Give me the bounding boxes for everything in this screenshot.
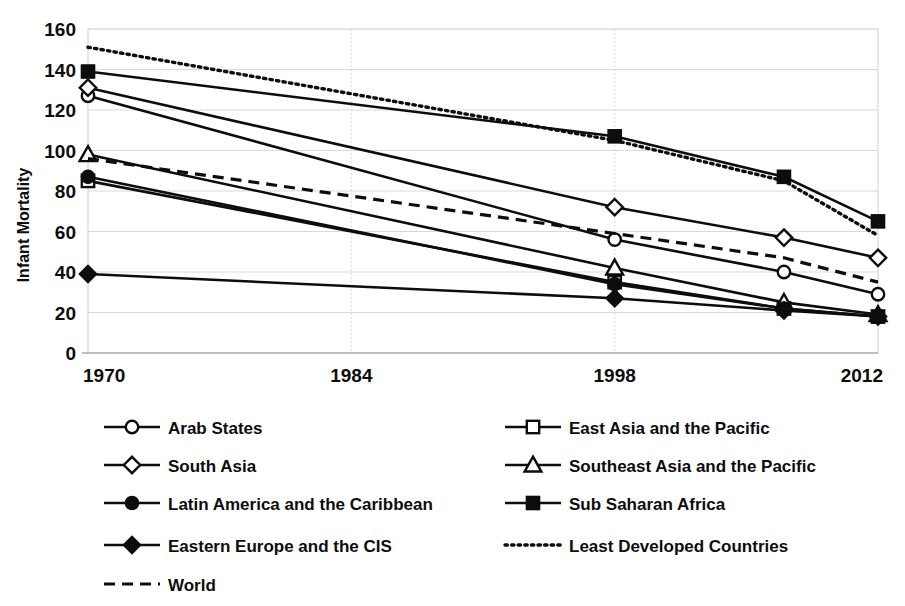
series-line <box>88 88 878 258</box>
legend-item-label: Southeast Asia and the Pacific <box>569 457 816 476</box>
data-point-marker-diamond <box>124 457 140 473</box>
series-east-asia-and-the-pacific <box>82 175 884 323</box>
data-point-marker-diamond <box>870 250 886 266</box>
series-line <box>88 47 878 235</box>
series-line <box>88 177 878 317</box>
data-point-marker-circle <box>126 497 138 509</box>
data-point-marker-square <box>527 497 539 509</box>
legend-item-label: South Asia <box>168 457 257 476</box>
legend-item-label: Latin America and the Caribbean <box>168 495 433 514</box>
x-tick-label: 1970 <box>83 365 125 386</box>
legend-item-label: World <box>168 576 216 595</box>
y-tick-label: 100 <box>44 141 76 162</box>
infant-mortality-line-chart: 020406080100120140160 1970198419982012 A… <box>0 0 905 606</box>
legend-item-eastern-europe-and-the-cis[interactable]: Eastern Europe and the CIS <box>104 537 392 556</box>
legend-item-label: Sub Saharan Africa <box>569 495 726 514</box>
legend-item-southeast-asia-and-the-pacific[interactable]: Southeast Asia and the Pacific <box>505 457 816 476</box>
y-tick-label: 140 <box>44 60 76 81</box>
legend-item-label: Eastern Europe and the CIS <box>168 537 392 556</box>
legend-item-east-asia-and-the-pacific[interactable]: East Asia and the Pacific <box>505 419 770 438</box>
legend-item-label: East Asia and the Pacific <box>569 419 770 438</box>
data-point-marker-circle <box>82 171 94 183</box>
y-tick-label: 60 <box>55 222 76 243</box>
data-point-marker-circle <box>608 233 620 245</box>
series-line <box>88 274 878 317</box>
data-series-group <box>80 47 887 325</box>
x-tick-label: 2012 <box>841 365 883 386</box>
legend-item-sub-saharan-africa[interactable]: Sub Saharan Africa <box>505 495 726 514</box>
data-point-marker-diamond <box>606 290 622 306</box>
y-axis-title: Infant Mortality <box>15 168 32 283</box>
legend-item-latin-america-and-the-caribbean[interactable]: Latin America and the Caribbean <box>104 495 433 514</box>
y-tick-label: 20 <box>55 303 76 324</box>
legend-item-least-developed-countries[interactable]: Least Developed Countries <box>505 537 788 556</box>
y-axis-tick-labels: 020406080100120140160 <box>44 19 76 364</box>
x-tick-label: 1984 <box>330 365 373 386</box>
data-point-marker-circle <box>778 266 790 278</box>
legend-item-arab-states[interactable]: Arab States <box>104 419 262 438</box>
series-eastern-europe-and-the-cis <box>80 266 886 325</box>
legend-item-label: Arab States <box>168 419 262 438</box>
data-point-marker-circle <box>608 278 620 290</box>
series-latin-america-and-the-caribbean <box>82 171 884 323</box>
data-point-marker-diamond <box>606 199 622 215</box>
y-tick-label: 40 <box>55 262 76 283</box>
series-least-developed-countries <box>88 47 878 235</box>
series-line <box>88 96 878 294</box>
y-tick-label: 80 <box>55 181 76 202</box>
data-point-marker-diamond <box>80 266 96 282</box>
chart-legend: Arab StatesEast Asia and the PacificSout… <box>104 419 816 595</box>
legend-item-world[interactable]: World <box>104 576 216 595</box>
series-line <box>88 72 878 222</box>
y-tick-label: 120 <box>44 100 76 121</box>
x-tick-label: 1998 <box>594 365 636 386</box>
data-point-marker-square <box>82 65 94 77</box>
chart-canvas: 020406080100120140160 1970198419982012 A… <box>0 0 905 606</box>
data-point-marker-square <box>527 421 539 433</box>
x-axis-tick-labels: 1970198419982012 <box>83 365 883 386</box>
legend-item-label: Least Developed Countries <box>569 537 788 556</box>
data-point-marker-diamond <box>124 537 140 553</box>
legend-item-south-asia[interactable]: South Asia <box>104 457 257 476</box>
y-tick-label: 160 <box>44 19 76 40</box>
data-point-marker-circle <box>872 288 884 300</box>
data-point-marker-circle <box>126 421 138 433</box>
data-point-marker-square <box>872 215 884 227</box>
y-tick-label: 0 <box>65 343 76 364</box>
